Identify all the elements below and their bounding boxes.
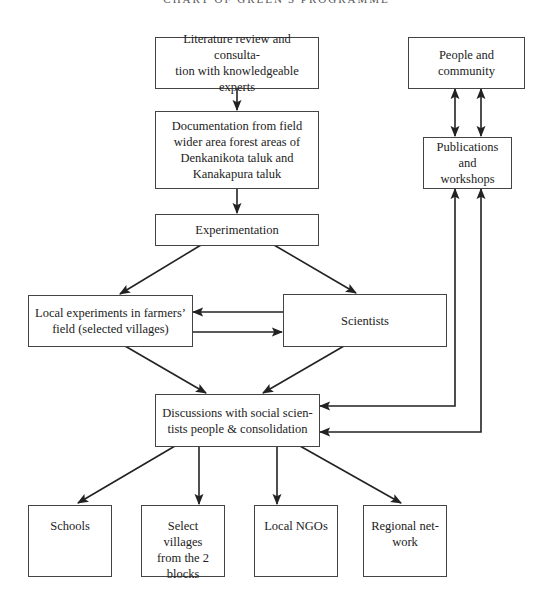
node-text-line: Local NGOs (264, 518, 328, 534)
node-text-line: Schools (50, 518, 90, 534)
node-text-line: Experimentation (195, 222, 278, 238)
node-scientists: Scientists (283, 294, 447, 347)
node-publications-workshops: Publicationsand workshops (423, 137, 512, 189)
node-text-line: Literature review and consulta- (162, 31, 312, 63)
node-text-line: Discussions with social scien- (162, 405, 312, 421)
node-text-line: Local experiments in farmers’ (35, 305, 186, 321)
node-text-line: Publications (430, 139, 505, 155)
node-text-line: from the 2 (148, 550, 218, 566)
node-text-line: tists people & consolidation (162, 421, 312, 437)
node-text-line: blocks (148, 566, 218, 582)
arrow-discussions-to-schools (78, 446, 175, 503)
node-text-line: field (selected villages) (35, 321, 186, 337)
node-select-villages: Select villagesfrom the 2blocks (141, 505, 225, 577)
node-local-ngos: Local NGOs (254, 505, 338, 577)
node-schools: Schools (28, 505, 112, 577)
node-text-line: Scientists (341, 313, 389, 329)
arrow-discussions-to-regional-network (300, 446, 401, 503)
node-text-line: Denkanikota taluk and (172, 150, 303, 166)
arrow-local-experiments-to-discussions (125, 346, 206, 393)
node-literature-review: Literature review and consulta-tion with… (155, 37, 319, 89)
node-text-line: Regional net- (371, 518, 439, 534)
arrow-scientists-to-discussions (263, 346, 344, 393)
node-experimentation: Experimentation (155, 214, 319, 246)
node-documentation: Documentation from fieldwider area fores… (155, 111, 319, 189)
node-text-line: People and community (415, 47, 518, 79)
node-text-line: work (371, 534, 439, 550)
node-text-line: wider area forest areas of (172, 134, 303, 150)
node-people-community: People and community (408, 37, 525, 89)
node-text-line: tion with knowledgeable experts (162, 63, 312, 95)
node-text-line: and workshops (430, 155, 505, 187)
arrow-experimentation-to-scientists (274, 245, 356, 293)
arrow-experimentation-to-local-experiments (120, 245, 201, 294)
node-local-experiments: Local experiments in farmers’field (sele… (28, 295, 193, 347)
node-regional-network: Regional net-work (363, 505, 447, 577)
node-text-line: Documentation from field (172, 118, 303, 134)
node-text-line: Select villages (148, 518, 218, 550)
node-discussions: Discussions with social scien-tists peop… (155, 394, 320, 447)
node-text-line: Kanakapura taluk (172, 166, 303, 182)
